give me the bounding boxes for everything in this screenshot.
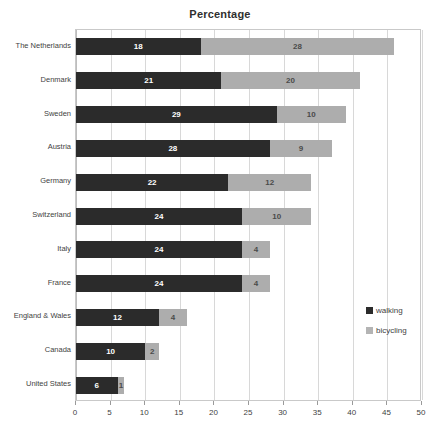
- bar-row[interactable]: 2910: [76, 106, 420, 123]
- x-tick-10: [144, 401, 145, 405]
- bar-segment-walking[interactable]: 28: [76, 140, 270, 157]
- bar-row[interactable]: 2212: [76, 174, 420, 191]
- bar-value-label: 9: [299, 144, 303, 153]
- x-tick-35: [317, 401, 318, 405]
- bar-row[interactable]: 2120: [76, 72, 420, 89]
- bar-value-label: 24: [155, 279, 164, 288]
- y-axis-label-england-wales: England & Wales: [0, 312, 71, 320]
- x-tick-label-20: 20: [209, 408, 218, 417]
- bar-segment-bicycling[interactable]: 4: [159, 309, 187, 326]
- legend-item-walking[interactable]: walking: [366, 306, 407, 315]
- legend-item-bicycling[interactable]: bicycling: [366, 326, 407, 335]
- x-tick-label-30: 30: [278, 408, 287, 417]
- bar-value-label: 21: [144, 76, 153, 85]
- bar-segment-walking[interactable]: 10: [76, 343, 145, 360]
- bar-segment-walking[interactable]: 24: [76, 275, 242, 292]
- bar-value-label: 10: [272, 212, 281, 221]
- bar-value-label: 4: [171, 313, 175, 322]
- y-axis-label-germany: Germany: [0, 177, 71, 185]
- chart-container: Percentage The NetherlandsDenmarkSwedenA…: [0, 0, 440, 436]
- legend-label: bicycling: [376, 326, 407, 335]
- bar-value-label: 29: [172, 110, 181, 119]
- x-tick-label-0: 0: [73, 408, 77, 417]
- x-tick-label-15: 15: [174, 408, 183, 417]
- bar-segment-bicycling[interactable]: 10: [242, 208, 311, 225]
- x-tick-20: [213, 401, 214, 405]
- x-tick-label-45: 45: [382, 408, 391, 417]
- bar-segment-bicycling[interactable]: 28: [201, 38, 395, 55]
- gridline-50: [422, 30, 423, 400]
- x-tick-label-50: 50: [417, 408, 426, 417]
- bar-row[interactable]: 2410: [76, 208, 420, 225]
- bar-value-label: 4: [254, 279, 258, 288]
- y-axis-label-sweden: Sweden: [0, 110, 71, 118]
- bar-segment-bicycling[interactable]: 2: [145, 343, 159, 360]
- x-tick-15: [179, 401, 180, 405]
- bar-segment-bicycling[interactable]: 4: [242, 275, 270, 292]
- bar-segment-bicycling[interactable]: 4: [242, 241, 270, 258]
- bar-value-label: 6: [95, 381, 99, 390]
- x-tick-label-40: 40: [347, 408, 356, 417]
- bar-row[interactable]: 244: [76, 275, 420, 292]
- y-axis-label-france: France: [0, 279, 71, 287]
- x-tick-30: [283, 401, 284, 405]
- y-axis-label-italy: Italy: [0, 245, 71, 253]
- y-axis-label-switzerland: Switzerland: [0, 211, 71, 219]
- bar-segment-bicycling[interactable]: 10: [277, 106, 346, 123]
- bar-segment-walking[interactable]: 21: [76, 72, 221, 89]
- bar-value-label: 28: [293, 42, 302, 51]
- y-axis-label-canada: Canada: [0, 346, 71, 354]
- bar-segment-bicycling[interactable]: 12: [228, 174, 311, 191]
- legend-swatch-walking-icon: [366, 307, 373, 314]
- bar-segment-walking[interactable]: 29: [76, 106, 277, 123]
- bar-value-label: 20: [286, 76, 295, 85]
- x-tick-45: [386, 401, 387, 405]
- bar-value-label: 12: [265, 178, 274, 187]
- y-axis-label-austria: Austria: [0, 143, 71, 151]
- x-tick-5: [110, 401, 111, 405]
- bar-value-label: 10: [106, 347, 115, 356]
- bar-value-label: 22: [148, 178, 157, 187]
- bar-segment-bicycling[interactable]: 20: [221, 72, 359, 89]
- bar-row[interactable]: 61: [76, 377, 420, 394]
- bar-segment-walking[interactable]: 24: [76, 208, 242, 225]
- bar-value-label: 18: [134, 42, 143, 51]
- bar-segment-walking[interactable]: 22: [76, 174, 228, 191]
- bar-value-label: 4: [254, 245, 258, 254]
- bar-value-label: 24: [155, 212, 164, 221]
- bar-value-label: 24: [155, 245, 164, 254]
- x-axis: 05101520253035404550: [75, 401, 421, 427]
- x-tick-label-35: 35: [313, 408, 322, 417]
- y-axis-label-united-states: United States: [0, 380, 71, 388]
- bar-value-label: 12: [113, 313, 122, 322]
- y-axis-label-denmark: Denmark: [0, 76, 71, 84]
- legend-label: walking: [376, 306, 403, 315]
- bar-value-label: 1: [119, 381, 123, 390]
- x-tick-label-25: 25: [244, 408, 253, 417]
- y-axis-category-labels: The NetherlandsDenmarkSwedenAustriaGerma…: [0, 29, 71, 401]
- bar-value-label: 10: [307, 110, 316, 119]
- x-tick-50: [421, 401, 422, 405]
- bar-row[interactable]: 1828: [76, 38, 420, 55]
- bar-segment-walking[interactable]: 6: [76, 377, 118, 394]
- bar-row[interactable]: 244: [76, 241, 420, 258]
- bar-segment-bicycling[interactable]: 1: [118, 377, 125, 394]
- bar-segment-walking[interactable]: 12: [76, 309, 159, 326]
- chart-legend: walkingbicycling: [366, 306, 407, 346]
- bar-segment-walking[interactable]: 18: [76, 38, 201, 55]
- bar-value-label: 2: [150, 347, 154, 356]
- x-tick-40: [352, 401, 353, 405]
- chart-title: Percentage: [0, 8, 440, 20]
- y-axis-label-the-netherlands: The Netherlands: [0, 42, 71, 50]
- x-tick-label-5: 5: [107, 408, 111, 417]
- x-tick-label-10: 10: [140, 408, 149, 417]
- x-tick-0: [75, 401, 76, 405]
- bar-segment-walking[interactable]: 24: [76, 241, 242, 258]
- bar-row[interactable]: 289: [76, 140, 420, 157]
- legend-swatch-bicycling-icon: [366, 327, 373, 334]
- x-tick-25: [248, 401, 249, 405]
- bar-segment-bicycling[interactable]: 9: [270, 140, 332, 157]
- bar-value-label: 28: [168, 144, 177, 153]
